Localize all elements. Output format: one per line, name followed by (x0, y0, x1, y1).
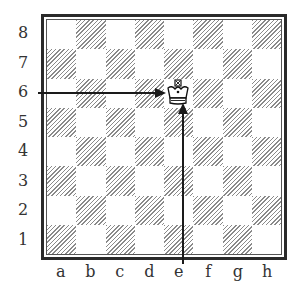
vertical-arrow (178, 103, 188, 264)
arrows-overlay (0, 0, 305, 291)
horizontal-arrow (38, 88, 166, 98)
